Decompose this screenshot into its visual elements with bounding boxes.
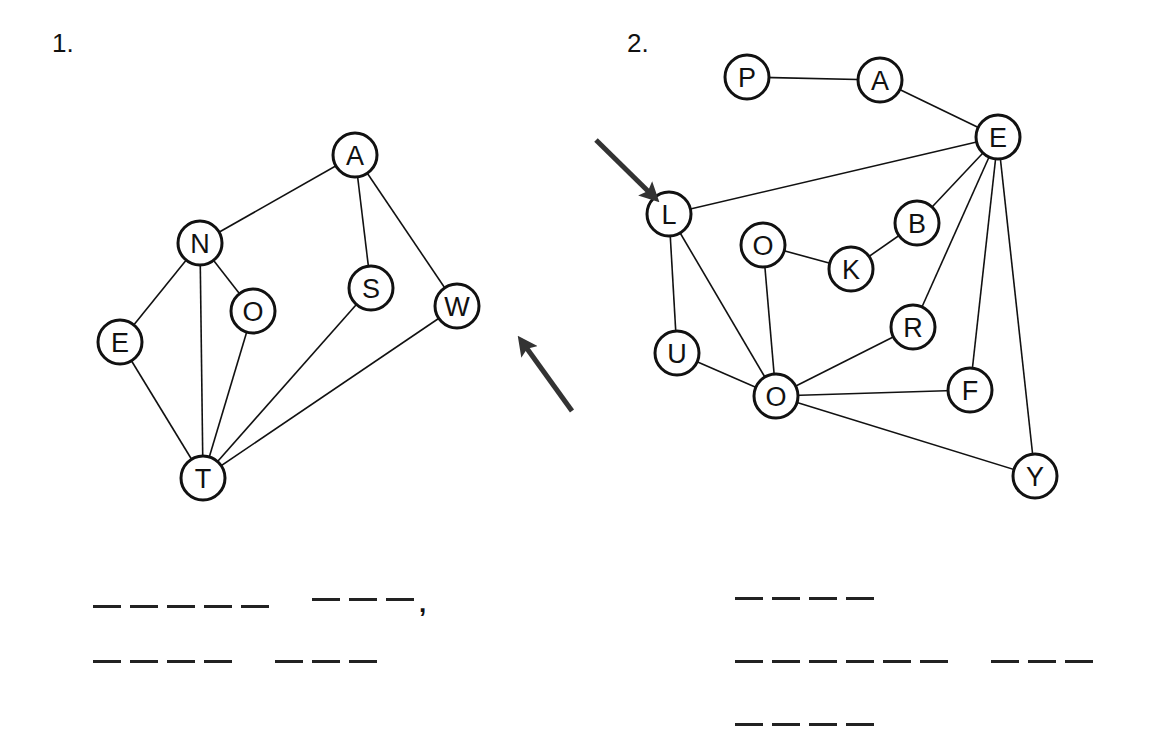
svg-text:O: O — [242, 297, 263, 327]
node-n[interactable]: N — [178, 221, 222, 265]
edge-e-f — [970, 137, 998, 390]
letter-blank[interactable] — [312, 660, 340, 663]
letter-blank[interactable] — [772, 660, 800, 663]
letter-blank[interactable] — [772, 597, 800, 600]
start-arrow-icon — [596, 140, 653, 196]
node-y[interactable]: Y — [1013, 454, 1057, 498]
svg-text:F: F — [962, 376, 979, 406]
letter-blank[interactable] — [809, 597, 837, 600]
edge-e-y — [998, 137, 1035, 476]
node-s[interactable]: S — [349, 266, 393, 310]
svg-text:R: R — [903, 313, 923, 343]
edge-w-t — [203, 306, 457, 478]
letter-blank[interactable] — [1065, 660, 1093, 663]
node-o[interactable]: O — [231, 289, 275, 333]
edge-n-t — [200, 243, 203, 478]
answer-word[interactable] — [735, 660, 957, 663]
puzzle-1-answer-line-1[interactable]: , — [93, 598, 460, 608]
letter-blank[interactable] — [809, 723, 837, 726]
puzzle-1-answer-line-2[interactable] — [93, 660, 420, 663]
letter-blank[interactable] — [809, 660, 837, 663]
node-a[interactable]: A — [858, 58, 902, 102]
letter-blank[interactable] — [167, 660, 195, 663]
letter-blank[interactable] — [130, 660, 158, 663]
svg-text:Y: Y — [1026, 462, 1044, 492]
letter-blank[interactable] — [1028, 660, 1056, 663]
letter-blank[interactable] — [735, 597, 763, 600]
answer-word[interactable] — [991, 660, 1102, 663]
node-p[interactable]: P — [725, 55, 769, 99]
puzzle-2-answer-line-2[interactable] — [735, 660, 1136, 663]
answer-word[interactable] — [93, 605, 278, 608]
letter-blank[interactable] — [920, 660, 948, 663]
letter-blank[interactable] — [204, 605, 232, 608]
svg-text:B: B — [908, 209, 926, 239]
edge-e-l — [669, 137, 998, 214]
letter-blank[interactable] — [241, 605, 269, 608]
letter-blank[interactable] — [991, 660, 1019, 663]
edge-e-t — [120, 342, 203, 478]
letter-blank[interactable] — [167, 605, 195, 608]
node-b[interactable]: B — [895, 201, 939, 245]
node-e[interactable]: E — [976, 115, 1020, 159]
letter-blank[interactable] — [846, 660, 874, 663]
puzzle-1-graph: ANEOSWT — [98, 133, 572, 500]
start-arrow-icon — [523, 343, 572, 411]
word-path-diagrams: ANEOSWTPAELBOKRUOFY — [0, 0, 1154, 754]
node-t[interactable]: T — [181, 456, 225, 500]
node-e[interactable]: E — [98, 320, 142, 364]
letter-blank[interactable] — [130, 605, 158, 608]
puzzle-2-answer-line-3[interactable] — [735, 723, 917, 726]
answer-word[interactable]: , — [312, 598, 426, 608]
node-l[interactable]: L — [647, 192, 691, 236]
node-o1[interactable]: O — [741, 223, 785, 267]
letter-blank[interactable] — [846, 597, 874, 600]
edge-o2-f — [776, 390, 970, 396]
answer-word[interactable] — [735, 723, 883, 726]
svg-text:K: K — [842, 255, 860, 285]
answer-word[interactable] — [93, 660, 241, 663]
svg-text:T: T — [195, 464, 212, 494]
puzzle-2-graph: PAELBOKRUOFY — [596, 55, 1057, 498]
svg-text:W: W — [444, 292, 470, 322]
svg-text:O: O — [765, 382, 786, 412]
puzzle-2-answer-line-1[interactable] — [735, 597, 917, 600]
svg-text:A: A — [346, 141, 364, 171]
letter-blank[interactable] — [735, 723, 763, 726]
svg-text:O: O — [752, 231, 773, 261]
svg-text:E: E — [111, 328, 129, 358]
letter-blank[interactable] — [735, 660, 763, 663]
node-o2[interactable]: O — [754, 374, 798, 418]
letter-blank[interactable] — [204, 660, 232, 663]
letter-blank[interactable] — [349, 598, 377, 601]
letter-blank[interactable] — [349, 660, 377, 663]
node-a[interactable]: A — [333, 133, 377, 177]
svg-text:E: E — [989, 123, 1007, 153]
letter-blank[interactable] — [883, 660, 911, 663]
svg-text:U: U — [667, 339, 687, 369]
letter-blank[interactable] — [93, 660, 121, 663]
svg-text:S: S — [362, 274, 380, 304]
letter-blank[interactable] — [846, 723, 874, 726]
answer-word[interactable] — [735, 597, 883, 600]
node-f[interactable]: F — [948, 368, 992, 412]
answer-word[interactable] — [275, 660, 386, 663]
letter-blank[interactable] — [772, 723, 800, 726]
letter-blank[interactable] — [386, 598, 414, 601]
svg-text:L: L — [661, 200, 676, 230]
letter-blank[interactable] — [93, 605, 121, 608]
letter-blank[interactable] — [275, 660, 303, 663]
node-r[interactable]: R — [891, 305, 935, 349]
svg-text:P: P — [738, 63, 756, 93]
svg-text:N: N — [190, 229, 210, 259]
edge-o2-y — [776, 396, 1035, 476]
letter-blank[interactable] — [312, 598, 340, 601]
edge-o-t — [203, 311, 253, 478]
node-k[interactable]: K — [829, 247, 873, 291]
edge-s-t — [203, 288, 371, 478]
node-u[interactable]: U — [655, 331, 699, 375]
edge-a-n — [200, 155, 355, 243]
node-w[interactable]: W — [435, 284, 479, 328]
svg-text:A: A — [871, 66, 889, 96]
answer-punctuation: , — [419, 598, 426, 608]
